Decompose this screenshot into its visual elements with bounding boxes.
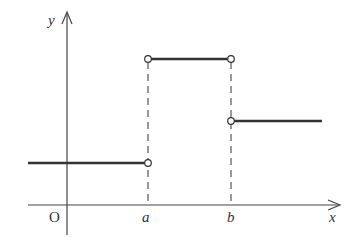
step-function-diagram: y O a b x (0, 0, 354, 247)
open-point-left-end (145, 160, 152, 167)
origin-label: O (49, 209, 60, 225)
open-point-right-start (228, 118, 235, 125)
open-point-middle-end (228, 56, 235, 63)
open-point-middle-start (145, 56, 152, 63)
tick-label-b: b (227, 209, 235, 225)
tick-label-a: a (142, 209, 150, 225)
x-axis-label: x (328, 209, 336, 225)
y-axis-label: y (46, 12, 55, 28)
